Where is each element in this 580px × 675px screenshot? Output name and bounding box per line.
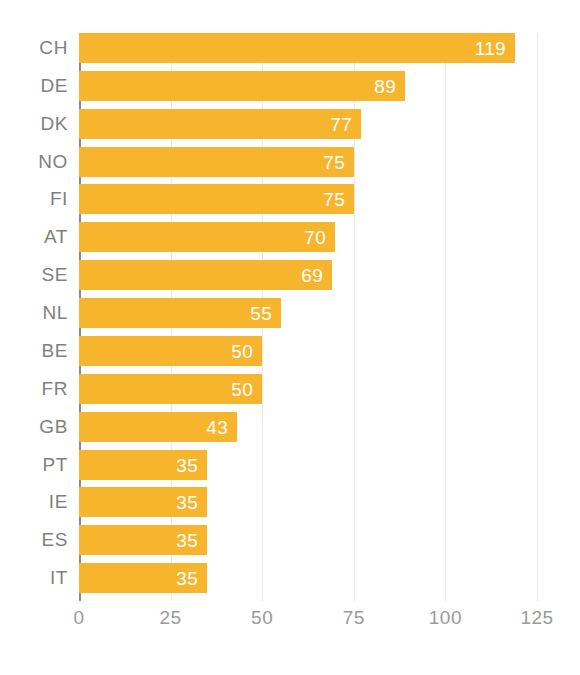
bar-row: 89 [79,71,537,101]
bar-it[interactable]: 35 [79,563,207,593]
x-tick-label-75: 75 [343,607,365,629]
bar-row: 75 [79,147,537,177]
y-axis-label-de: DE [6,71,68,101]
bar-row: 55 [79,298,537,328]
bar-chart: CHDEDKNOFIATSENLBEFRGBPTIEESIT 119897775… [0,0,580,675]
bar-row: 35 [79,563,537,593]
bar-dk[interactable]: 77 [79,109,361,139]
bar-de[interactable]: 89 [79,71,405,101]
bar-se[interactable]: 69 [79,260,332,290]
bar-pt[interactable]: 35 [79,450,207,480]
plot-area: 1198977757570695550504335353535 [79,33,537,601]
bar-row: 75 [79,184,537,214]
bar-be[interactable]: 50 [79,336,262,366]
bar-row: 35 [79,450,537,480]
bar-row: 35 [79,525,537,555]
x-tick-label-25: 25 [160,607,182,629]
bar-value-label: 35 [176,456,207,475]
x-tick-label-50: 50 [251,607,273,629]
bar-row: 50 [79,336,537,366]
bar-value-label: 35 [176,531,207,550]
bar-ch[interactable]: 119 [79,33,515,63]
bar-value-label: 119 [475,39,515,58]
x-tick-label-125: 125 [520,607,553,629]
y-axis-label-fr: FR [6,374,68,404]
y-axis-label-ie: IE [6,487,68,517]
bar-gb[interactable]: 43 [79,412,237,442]
bar-fi[interactable]: 75 [79,184,354,214]
bar-at[interactable]: 70 [79,222,335,252]
y-axis-label-no: NO [6,147,68,177]
bar-row: 77 [79,109,537,139]
bar-fr[interactable]: 50 [79,374,262,404]
bar-value-label: 89 [374,77,405,96]
bar-value-label: 70 [304,228,335,247]
x-axis-labels: 0255075100125 [79,607,537,637]
y-axis-label-nl: NL [6,298,68,328]
bar-row: 70 [79,222,537,252]
y-axis-label-es: ES [6,525,68,555]
bar-value-label: 75 [323,190,354,209]
y-axis-label-pt: PT [6,450,68,480]
bar-value-label: 35 [176,493,207,512]
bar-row: 69 [79,260,537,290]
bar-row: 35 [79,487,537,517]
bar-value-label: 69 [301,266,332,285]
bar-value-label: 43 [206,418,237,437]
y-axis-label-ch: CH [6,33,68,63]
x-tick-label-100: 100 [429,607,462,629]
y-axis-label-se: SE [6,260,68,290]
x-tick-label-0: 0 [73,607,84,629]
bar-es[interactable]: 35 [79,525,207,555]
bar-row: 43 [79,412,537,442]
bar-value-label: 35 [176,569,207,588]
y-axis-label-gb: GB [6,412,68,442]
bar-value-label: 50 [231,342,262,361]
gridline-125 [537,33,538,601]
y-axis-label-at: AT [6,222,68,252]
y-axis-label-be: BE [6,336,68,366]
bar-row: 119 [79,33,537,63]
bar-nl[interactable]: 55 [79,298,281,328]
bar-value-label: 77 [330,115,361,134]
bar-value-label: 55 [250,304,281,323]
y-axis-label-it: IT [6,563,68,593]
bar-value-label: 50 [231,380,262,399]
y-axis-labels: CHDEDKNOFIATSENLBEFRGBPTIEESIT [0,33,68,601]
bar-no[interactable]: 75 [79,147,354,177]
y-axis-label-fi: FI [6,184,68,214]
bar-value-label: 75 [323,153,354,172]
y-axis-label-dk: DK [6,109,68,139]
bar-row: 50 [79,374,537,404]
bar-ie[interactable]: 35 [79,487,207,517]
